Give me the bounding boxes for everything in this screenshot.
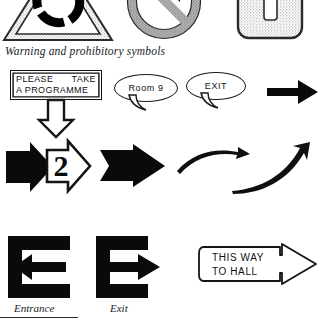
exit-sign: [96, 236, 162, 298]
programme-sign-line1-left: PLEASE: [16, 74, 53, 85]
warning-triangle-symbol: [2, 0, 114, 44]
down-arrow-outline-icon: [37, 100, 75, 138]
exit-label: Exit: [110, 302, 128, 314]
curved-arrow-up-right-icon: [230, 142, 316, 194]
speech-bubble-tail-icon: [127, 95, 149, 111]
rounded-plate-symbol: [232, 0, 310, 44]
bottom-divider-rule: [0, 317, 78, 318]
figure-page: Warning and prohibitory symbols PLEASE T…: [0, 0, 323, 320]
right-arrow-outline-numbered: 2: [44, 139, 92, 193]
entrance-label: Entrance: [14, 302, 54, 314]
speech-bubble-room: Room 9: [114, 74, 178, 102]
speech-bubble-tail-icon: [199, 93, 221, 109]
programme-sign-line1-right: TAKE: [72, 74, 96, 85]
programme-sign-line2: A PROGRAMME: [16, 85, 96, 96]
speech-bubble-exit-text: EXIT: [205, 81, 227, 91]
caption-warning-symbols: Warning and prohibitory symbols: [5, 45, 165, 57]
right-arrow-solid-icon: [267, 79, 319, 105]
entrance-sign: [8, 236, 70, 298]
speech-bubble-room-text: Room 9: [128, 83, 163, 93]
this-way-line2: TO HALL: [212, 266, 258, 277]
speech-bubble-exit: EXIT: [186, 72, 246, 100]
right-arrow-notched-tail-icon: [100, 144, 166, 188]
programme-sign: PLEASE TAKE A PROGRAMME: [10, 70, 102, 100]
outline-arrow-number: 2: [54, 149, 69, 182]
prohibition-circle-symbol: [118, 0, 210, 44]
this-way-line1: THIS WAY: [212, 252, 264, 263]
this-way-sign: THIS WAY TO HALL: [198, 243, 318, 285]
